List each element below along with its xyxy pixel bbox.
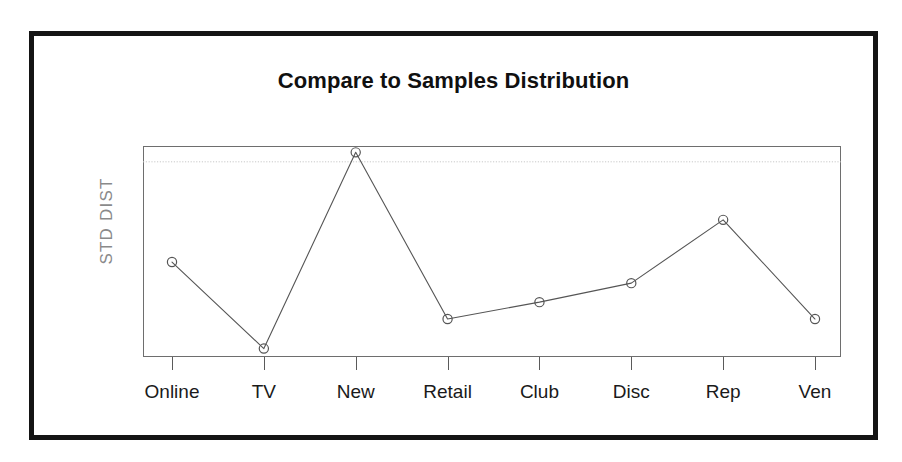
x-axis-label-ven: Ven bbox=[799, 381, 832, 403]
x-tick-rep bbox=[723, 357, 724, 370]
y-axis-label: STD DIST bbox=[97, 156, 117, 286]
x-tick-retail bbox=[448, 357, 449, 370]
x-tick-ven bbox=[815, 357, 816, 370]
x-axis-label-retail: Retail bbox=[423, 381, 472, 403]
x-tick-new bbox=[356, 357, 357, 370]
x-tick-disc bbox=[631, 357, 632, 370]
x-tick-club bbox=[539, 357, 540, 370]
x-axis-label-disc: Disc bbox=[613, 381, 650, 403]
x-axis-label-rep: Rep bbox=[706, 381, 741, 403]
x-tick-online bbox=[172, 357, 173, 370]
series-line-std-dist bbox=[172, 152, 815, 348]
x-axis-label-club: Club bbox=[520, 381, 559, 403]
x-axis-label-online: Online bbox=[145, 381, 200, 403]
line-chart-svg bbox=[143, 146, 841, 357]
slide-canvas: Compare to Samples Distribution STD DIST… bbox=[34, 36, 873, 435]
x-axis-label-new: New bbox=[337, 381, 375, 403]
page-title: Compare to Samples Distribution bbox=[34, 68, 873, 94]
plot-area bbox=[143, 146, 841, 357]
x-axis-label-tv: TV bbox=[252, 381, 276, 403]
x-tick-tv bbox=[264, 357, 265, 370]
data-point-markers bbox=[167, 148, 819, 353]
x-axis: OnlineTVNewRetailClubDiscRepVen bbox=[143, 357, 841, 427]
slide-frame: Compare to Samples Distribution STD DIST… bbox=[29, 31, 878, 440]
